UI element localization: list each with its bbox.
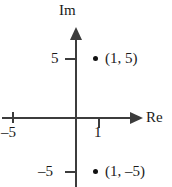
- tick-label-im-negative-five: –5: [38, 164, 53, 179]
- tick-label-re-one: 1: [94, 125, 102, 140]
- imaginary-axis-label: Im: [59, 3, 76, 18]
- tick-mark-im-negative-five: [65, 171, 76, 173]
- real-axis-label: Re: [146, 110, 163, 125]
- imaginary-axis-arrow-icon: [70, 27, 82, 40]
- real-axis-arrow-icon: [130, 112, 143, 124]
- complex-plane-figure: Im Re –5 1 5 –5 (1, 5) (1, –5): [0, 0, 172, 187]
- real-axis-line: [2, 117, 136, 119]
- imaginary-axis-line: [75, 33, 77, 187]
- data-point-label-lower: (1, –5): [105, 164, 145, 179]
- tick-label-im-five: 5: [51, 51, 59, 66]
- tick-mark-im-five: [65, 58, 76, 60]
- tick-label-re-negative-five: –5: [1, 125, 16, 140]
- data-point-marker-upper: [93, 56, 98, 61]
- tick-mark-re-negative-five: [12, 112, 14, 123]
- data-point-label-upper: (1, 5): [105, 51, 138, 66]
- data-point-marker-lower: [93, 169, 98, 174]
